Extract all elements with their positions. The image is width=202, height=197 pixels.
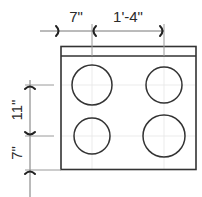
dimension-label-top-right: 1'-4" xyxy=(113,8,143,25)
cooktop-dimension-diagram: 7" 1'-4" 11" 7" xyxy=(0,0,202,197)
burners xyxy=(72,65,185,157)
dimension-label-side-upper: 11" xyxy=(8,100,25,121)
top-dimension: 7" 1'-4" xyxy=(40,8,164,56)
dimension-label-side-lower: 7" xyxy=(8,146,25,160)
dimension-label-top-left: 7" xyxy=(69,8,83,25)
side-dimension: 11" 7" xyxy=(8,80,61,197)
burner-center-lines xyxy=(62,57,195,169)
